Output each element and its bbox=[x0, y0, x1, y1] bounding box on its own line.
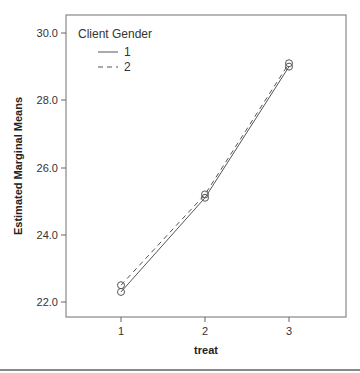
x-tick-label: 1 bbox=[118, 325, 124, 337]
chart: 22.0 24.0 26.0 28.0 30.0 Estimated Margi… bbox=[0, 0, 360, 373]
y-tick-label: 28.0 bbox=[37, 94, 58, 106]
plot-frame bbox=[66, 15, 346, 317]
y-tick-label: 26.0 bbox=[37, 162, 58, 174]
series-line-2 bbox=[121, 63, 289, 285]
y-tick-label: 24.0 bbox=[37, 229, 58, 241]
y-tick-label: 22.0 bbox=[37, 296, 58, 308]
y-tick-label: 30.0 bbox=[37, 27, 58, 39]
x-axis: 1 2 3 treat bbox=[118, 317, 292, 356]
x-axis-title: treat bbox=[194, 344, 218, 356]
legend-title: Client Gender bbox=[78, 27, 152, 41]
x-tick-label: 3 bbox=[286, 325, 292, 337]
bottom-divider bbox=[0, 369, 360, 371]
legend-item-label: 2 bbox=[124, 60, 131, 74]
series-layer bbox=[118, 60, 293, 296]
y-axis: 22.0 24.0 26.0 28.0 30.0 Estimated Margi… bbox=[12, 27, 66, 308]
legend-item-label: 1 bbox=[124, 45, 131, 59]
legend: Client Gender 1 2 bbox=[78, 27, 152, 74]
x-tick-label: 2 bbox=[202, 325, 208, 337]
y-axis-title: Estimated Marginal Means bbox=[12, 97, 24, 235]
